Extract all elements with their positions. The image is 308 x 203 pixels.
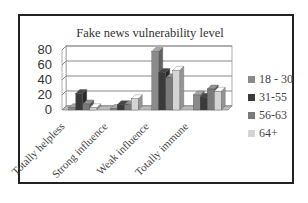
legend-label: 56-63 <box>259 108 287 123</box>
bar <box>214 87 225 110</box>
legend-item-56-63: 56-63 <box>248 106 293 124</box>
bar <box>173 66 184 110</box>
legend: 18 - 30 31-55 56-63 64+ <box>248 70 293 142</box>
legend-label: 64+ <box>259 126 278 141</box>
legend-swatch <box>248 94 255 101</box>
legend-label: 31-55 <box>259 90 287 105</box>
legend-swatch <box>248 130 255 137</box>
legend-swatch <box>248 112 255 119</box>
bar <box>131 95 142 110</box>
legend-label: 18 - 30 <box>259 72 293 87</box>
legend-swatch <box>248 76 255 83</box>
legend-item-31-55: 31-55 <box>248 88 293 106</box>
legend-item-64plus: 64+ <box>248 124 293 142</box>
legend-item-18-30: 18 - 30 <box>248 70 293 88</box>
